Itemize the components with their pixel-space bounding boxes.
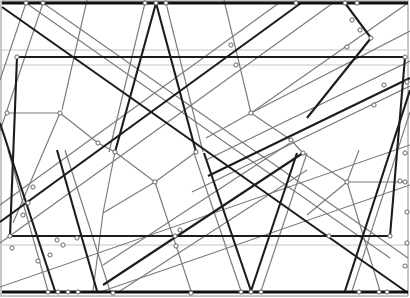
node-circle bbox=[96, 141, 100, 145]
node-circle bbox=[358, 28, 362, 32]
node-circle bbox=[301, 151, 305, 155]
node-circle bbox=[259, 290, 263, 294]
gray-line bbox=[251, 113, 291, 140]
inner-quad bbox=[10, 57, 405, 236]
gray-line bbox=[194, 153, 241, 291]
node-circle bbox=[289, 138, 293, 142]
node-circle bbox=[24, 1, 28, 5]
node-circle bbox=[174, 244, 178, 248]
node-circle bbox=[75, 236, 79, 240]
gray-line bbox=[65, 150, 110, 291]
gray-line bbox=[155, 152, 196, 182]
gray-line bbox=[192, 86, 410, 192]
node-circle bbox=[382, 83, 386, 87]
node-circle bbox=[372, 103, 376, 107]
gray-line bbox=[291, 140, 303, 153]
node-circle bbox=[5, 111, 9, 115]
node-circle bbox=[403, 264, 407, 268]
node-circle bbox=[294, 1, 298, 5]
node-circle bbox=[26, 201, 30, 205]
node-circle bbox=[229, 43, 233, 47]
node-circle bbox=[46, 290, 50, 294]
thick-line bbox=[251, 153, 297, 291]
node-circle bbox=[41, 1, 45, 5]
gray-line bbox=[115, 152, 155, 182]
node-circle bbox=[111, 291, 115, 295]
gray-line bbox=[303, 153, 347, 182]
node-circle bbox=[31, 185, 35, 189]
node-circle bbox=[76, 290, 80, 294]
node-circle bbox=[21, 213, 25, 217]
thick-line bbox=[57, 150, 97, 291]
gray-line bbox=[26, 3, 390, 258]
node-circle bbox=[249, 111, 253, 115]
node-circle bbox=[345, 180, 349, 184]
thick-line bbox=[345, 3, 371, 38]
node-circle bbox=[61, 243, 65, 247]
node-circle bbox=[357, 290, 361, 294]
gray-line bbox=[103, 152, 115, 213]
gray-line bbox=[307, 182, 347, 215]
node-circle bbox=[388, 234, 392, 238]
node-circle bbox=[178, 228, 182, 232]
node-circle bbox=[398, 179, 402, 183]
node-circle bbox=[343, 1, 347, 5]
node-circle bbox=[153, 180, 157, 184]
node-circle bbox=[355, 1, 359, 5]
node-circle bbox=[189, 291, 193, 295]
node-circle bbox=[345, 45, 349, 49]
node-circle bbox=[403, 151, 407, 155]
gray-line bbox=[206, 61, 410, 160]
node-circle bbox=[173, 234, 177, 238]
node-circle bbox=[403, 55, 407, 59]
node-circle bbox=[56, 290, 60, 294]
node-circle bbox=[385, 290, 389, 294]
thick-line bbox=[0, 123, 55, 291]
node-circle bbox=[403, 180, 407, 184]
node-circle bbox=[327, 234, 331, 238]
node-circle bbox=[15, 55, 19, 59]
node-circle bbox=[10, 246, 14, 250]
gray-line bbox=[62, 0, 87, 110]
gray-lines-group bbox=[0, 0, 410, 291]
node-circle bbox=[143, 1, 147, 5]
node-circle bbox=[234, 63, 238, 67]
node-circle bbox=[405, 80, 409, 84]
node-circle bbox=[239, 290, 243, 294]
gray-line bbox=[206, 113, 251, 138]
node-circle bbox=[55, 238, 59, 242]
node-circle bbox=[113, 150, 117, 154]
node-circle bbox=[8, 234, 12, 238]
node-circle bbox=[48, 253, 52, 257]
node-circle bbox=[66, 290, 70, 294]
thick-line bbox=[208, 78, 410, 176]
gray-line bbox=[261, 153, 307, 291]
line-arrangement-page bbox=[0, 0, 410, 298]
node-circle bbox=[36, 259, 40, 263]
node-circle bbox=[405, 210, 409, 214]
node-circle bbox=[154, 1, 158, 5]
node-circle bbox=[350, 18, 354, 22]
node-circle bbox=[405, 241, 409, 245]
node-circle bbox=[164, 1, 168, 5]
line-arrangement-figure bbox=[0, 0, 410, 298]
node-circle bbox=[58, 111, 62, 115]
gray-line bbox=[103, 182, 155, 213]
gray-line bbox=[60, 113, 98, 143]
node-circle bbox=[194, 150, 198, 154]
thick-line bbox=[103, 153, 303, 285]
node-circle bbox=[377, 290, 381, 294]
node-circle bbox=[369, 36, 373, 40]
node-circle bbox=[249, 290, 253, 294]
